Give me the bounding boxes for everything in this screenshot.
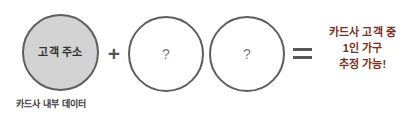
source-caption: 카드사 내부 데이터 bbox=[16, 97, 86, 110]
equals-bar-top bbox=[293, 48, 312, 51]
result-line-3: 추정 가능! bbox=[315, 56, 410, 72]
plus-operator-icon: + bbox=[103, 43, 125, 64]
circle-customer-address: 고객 주소 bbox=[22, 14, 99, 91]
equals-bar-bottom bbox=[293, 56, 312, 59]
circle-unknown-1-label: ? bbox=[162, 47, 170, 61]
result-line-1: 카드사 고객 중 bbox=[315, 24, 410, 40]
circle-customer-address-label: 고객 주소 bbox=[38, 47, 83, 58]
result-text: 카드사 고객 중 1인 가구 추정 가능! bbox=[315, 24, 410, 72]
equation-diagram: 고객 주소 + ? ? 카드사 고객 중 1인 가구 추정 가능! 카드사 내부… bbox=[0, 0, 413, 115]
equals-operator-icon bbox=[291, 42, 315, 66]
circle-unknown-2-label: ? bbox=[243, 47, 251, 61]
result-line-2: 1인 가구 bbox=[315, 40, 410, 56]
circle-unknown-1: ? bbox=[128, 16, 204, 92]
circle-unknown-2: ? bbox=[209, 16, 285, 92]
